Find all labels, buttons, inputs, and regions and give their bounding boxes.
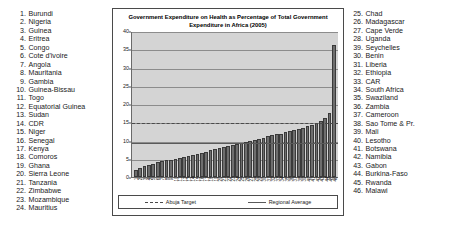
- chart-title-line2: Expenditure in Africa (2005): [189, 22, 267, 28]
- bar: [270, 135, 274, 177]
- country-list-item: 31.Liberia: [350, 61, 456, 69]
- country-list-item: 15.Niger: [4, 128, 112, 136]
- country-number: 31.: [350, 61, 363, 69]
- bar: [178, 158, 182, 177]
- country-list-item: 22.Zimbabwe: [4, 187, 112, 195]
- country-number: 15.: [4, 128, 26, 136]
- x-axis-tick: 13: [186, 178, 190, 194]
- country-number: 38.: [350, 120, 363, 128]
- country-number: 46.: [350, 187, 363, 195]
- country-list-item: 24.Mauritius: [4, 204, 112, 212]
- x-axis-tick: 10: [173, 178, 177, 194]
- country-list-item: 27.Cape Verde: [350, 27, 456, 35]
- country-name: Burkina-Faso: [366, 170, 408, 178]
- country-number: 20.: [4, 170, 26, 178]
- bar: [323, 118, 327, 177]
- x-axis-tick: 3: [142, 178, 146, 194]
- country-number: 39.: [350, 128, 363, 136]
- x-axis-tick: 4: [146, 178, 150, 194]
- country-list-item: 44.Burkina-Faso: [350, 170, 456, 178]
- country-number: 44.: [350, 170, 363, 178]
- x-axis-tick: 27: [248, 178, 252, 194]
- x-axis-tick: 20: [217, 178, 221, 194]
- country-name: Namibia: [366, 153, 392, 161]
- country-number: 27.: [350, 27, 363, 35]
- x-axis-tick: 6: [155, 178, 159, 194]
- bar: [284, 132, 288, 177]
- country-number: 40.: [350, 137, 363, 145]
- country-name: Eritrea: [29, 35, 50, 43]
- bar: [292, 130, 296, 177]
- country-number: 45.: [350, 179, 363, 187]
- country-number: 41.: [350, 145, 363, 153]
- x-axis-tick: 36: [288, 178, 292, 194]
- country-list-item: 43.Gabon: [350, 162, 456, 170]
- country-name: Angola: [29, 61, 51, 69]
- bar: [306, 126, 310, 177]
- country-number: 19.: [4, 162, 26, 170]
- chart-title-line1: Government Expenditure on Health as Perc…: [128, 14, 327, 20]
- country-list-item: 18.Comoros: [4, 153, 112, 161]
- country-name: Cape Verde: [366, 27, 403, 35]
- country-number: 25.: [350, 10, 363, 18]
- x-axis-tick: 45: [328, 178, 332, 194]
- bar: [187, 156, 191, 177]
- bar: [253, 140, 257, 177]
- x-axis-tick: 1: [133, 178, 137, 194]
- country-number: 4.: [4, 35, 26, 43]
- country-number: 23.: [4, 196, 26, 204]
- country-name: Botswana: [366, 145, 397, 153]
- country-list-item: 17.Kenya: [4, 145, 112, 153]
- bar: [240, 143, 244, 177]
- country-number: 8.: [4, 69, 26, 77]
- country-number: 42.: [350, 153, 363, 161]
- country-list-item: 1.Burundi: [4, 10, 112, 18]
- country-list-item: 34.South Africa: [350, 86, 456, 94]
- x-axis-tick: 7: [159, 178, 163, 194]
- country-name: Nigeria: [29, 18, 51, 26]
- country-number: 30.: [350, 52, 363, 60]
- country-name: Ghana: [29, 162, 50, 170]
- country-name: Madagascar: [366, 18, 405, 26]
- bar: [297, 129, 301, 177]
- country-number: 36.: [350, 103, 363, 111]
- country-list-item: 10.Guinea-Bissau: [4, 86, 112, 94]
- country-number: 11.: [4, 94, 26, 102]
- x-axis-tick: 29: [257, 178, 261, 194]
- country-name: Mauritania: [29, 69, 62, 77]
- bar: [319, 121, 323, 177]
- country-list-item: 13.Sudan: [4, 111, 112, 119]
- country-number: 28.: [350, 35, 363, 43]
- country-number: 7.: [4, 61, 26, 69]
- legend-label: Regional Average: [269, 199, 311, 205]
- country-list-item: 42.Namibia: [350, 153, 456, 161]
- reference-line-regional-average: [132, 143, 338, 144]
- country-number: 1.: [4, 10, 26, 18]
- x-axis-tick: 34: [279, 178, 283, 194]
- bar: [174, 159, 178, 177]
- x-axis-tick: 11: [177, 178, 181, 194]
- x-axis-tick: 40: [306, 178, 310, 194]
- bar: [213, 149, 217, 177]
- x-axis-tick: 22: [226, 178, 230, 194]
- bar: [226, 146, 230, 177]
- x-axis-tick: 14: [191, 178, 195, 194]
- country-list-item: 30.Benin: [350, 52, 456, 60]
- country-number: 16.: [4, 137, 26, 145]
- country-list-left: 1.Burundi2.Nigeria3.Guinea4.Eritrea5.Con…: [0, 0, 112, 213]
- country-name: Benin: [366, 52, 384, 60]
- country-name: Guinea: [29, 27, 52, 35]
- bar: [156, 162, 160, 177]
- country-name: Mali: [366, 128, 379, 136]
- chart-legend: Abuja TargetRegional Average: [118, 195, 338, 209]
- country-list-item: 8.Mauritania: [4, 69, 112, 77]
- country-name: Equatorial Guinea: [29, 103, 86, 111]
- country-list-item: 39.Mali: [350, 128, 456, 136]
- bar: [235, 144, 239, 177]
- country-number: 18.: [4, 153, 26, 161]
- x-axis: 1234567891011121314151617181920212223242…: [131, 178, 338, 194]
- country-list-item: 45.Rwanda: [350, 179, 456, 187]
- bar: [288, 131, 292, 177]
- country-name: Ethiopia: [366, 69, 392, 77]
- x-axis-tick: 33: [275, 178, 279, 194]
